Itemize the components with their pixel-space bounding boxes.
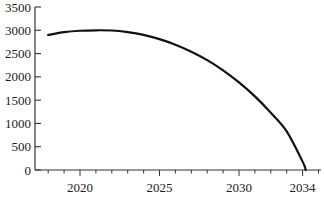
y-tick-label: 0 <box>25 163 32 178</box>
x-axis: 2020202520302034 <box>35 170 321 195</box>
y-tick-label: 500 <box>12 139 32 154</box>
y-tick-label: 1500 <box>5 93 31 108</box>
x-tick-label: 2025 <box>147 180 173 195</box>
line-chart: 0500100015002000250030003500 20202025203… <box>0 0 324 197</box>
y-tick-label: 2500 <box>5 46 31 61</box>
x-tick-label: 2030 <box>226 180 252 195</box>
data-curve <box>48 30 306 170</box>
y-tick-label: 3000 <box>5 23 31 38</box>
x-tick-label: 2020 <box>67 180 93 195</box>
x-tick-label: 2034 <box>290 180 317 195</box>
y-tick-label: 3500 <box>5 0 31 15</box>
y-tick-label: 2000 <box>5 69 31 84</box>
y-axis: 0500100015002000250030003500 <box>5 0 41 178</box>
y-tick-label: 1000 <box>5 116 31 131</box>
